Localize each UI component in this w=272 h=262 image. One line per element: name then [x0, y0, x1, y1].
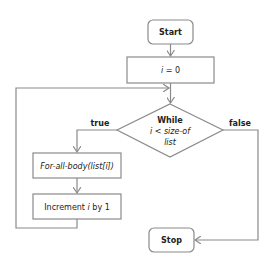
stop-label: Stop — [161, 236, 182, 245]
decision-line3: list — [164, 138, 177, 147]
init-rest: = 0 — [163, 66, 180, 75]
decision-node: While i < size-of list — [117, 104, 223, 157]
increment-post: by 1 — [90, 203, 110, 212]
increment-pre: Increment — [44, 203, 87, 212]
edge-false — [195, 130, 258, 240]
edge-true — [77, 130, 117, 152]
decision-line2: i < size-of — [150, 127, 191, 136]
decision-line1: While — [157, 116, 183, 125]
increment-node: Increment i by 1 — [33, 194, 121, 219]
svg-text:Increment i by 1: Increment i by 1 — [44, 203, 110, 212]
body-label: For-all-body(list[i]) — [40, 162, 114, 171]
body-node: For-all-body(list[i]) — [33, 153, 121, 178]
start-label: Start — [159, 28, 182, 37]
start-node: Start — [148, 20, 193, 44]
svg-text:i = 0: i = 0 — [161, 66, 180, 75]
flowchart: Start i = 0 While i < size-of list true … — [0, 0, 272, 262]
false-label: false — [229, 119, 251, 128]
true-label: true — [91, 119, 110, 128]
stop-node: Stop — [149, 228, 194, 252]
init-node: i = 0 — [127, 57, 214, 83]
